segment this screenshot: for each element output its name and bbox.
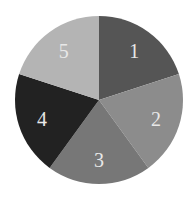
pie-label-3: 3 xyxy=(94,149,104,171)
pie-label-1: 1 xyxy=(129,40,139,62)
pie-label-2: 2 xyxy=(151,108,161,130)
pie-label-4: 4 xyxy=(37,108,47,130)
pie-chart: 12345 xyxy=(0,0,192,202)
pie-label-5: 5 xyxy=(59,40,69,62)
